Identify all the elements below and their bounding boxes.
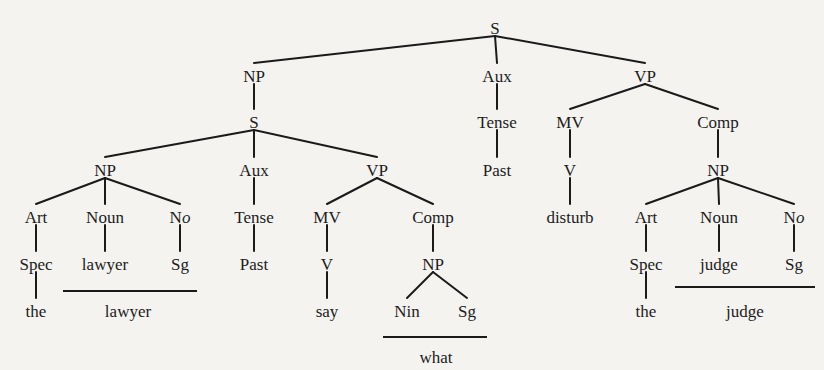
tree-node-Comp_1: Comp [697,113,739,132]
tree-edge-S_root-to-Aux_1 [495,36,497,63]
tree-edge-NP_2-to-No_1 [105,178,180,204]
tree-node-No_2: No [784,208,805,227]
tree-node-the_2: the [636,302,657,321]
tree-node-NP_3: NP [422,255,444,274]
tree-node-Past_2: Past [240,255,269,274]
tree-edge-VP_1-to-Comp_1 [645,84,718,109]
tree-edge-NP_3-to-Nin [407,272,433,298]
tree-node-Sg_2: Sg [458,302,476,321]
tree-node-Comp_2: Comp [412,208,454,227]
surface-form-underlines [63,287,815,337]
tree-node-Spec_2: Spec [629,255,663,274]
tree-edge-VP_1-to-MV_1 [570,84,645,109]
tree-edge-VP_2-to-MV_2 [327,178,377,204]
tree-node-MV_1: MV [556,113,584,132]
tree-node-Noun_2: Noun [700,208,738,227]
tree-edge-S_root-to-VP_1 [495,36,645,63]
tree-edge-S_root-to-NP_1 [254,36,495,63]
tree-edge-NP_4-to-Art_2 [646,178,718,204]
tree-node-Sg_3: Sg [785,255,803,274]
tree-edge-NP_2-to-Art_1 [36,178,105,204]
tree-node-Aux_1: Aux [482,67,512,86]
tree-node-judge_1: judge [699,255,738,274]
tree-edge-NP_4-to-Noun_2 [718,178,719,204]
tree-node-S_root: S [490,19,499,38]
tree-node-S_2: S [249,113,258,132]
tree-node-Spec_1: Spec [19,255,53,274]
tree-nodes: SNPAuxVPSTenseMVCompPastVNPNPAuxVPdistur… [19,19,804,321]
tree-node-V_1: V [564,161,577,180]
tree-node-Past_1: Past [483,161,512,180]
tree-node-Nin: Nin [394,302,420,321]
tree-node-Art_2: Art [635,208,658,227]
tree-node-VP_2: VP [366,161,388,180]
tree-node-lawyer_1: lawyer [82,255,129,274]
tree-edge-NP_4-to-No_2 [718,178,794,204]
tree-edge-S_2-to-VP_2 [254,130,377,157]
tree-node-NP_2: NP [94,161,116,180]
tree-edge-S_2-to-NP_2 [105,130,254,157]
tree-node-VP_1: VP [634,67,656,86]
tree-node-disturb: disturb [546,208,593,227]
surface_what: what [419,348,452,367]
tree-edge-VP_2-to-Comp_2 [377,178,433,204]
tree-node-NP_1: NP [243,67,265,86]
tree-node-Aux_2: Aux [239,161,269,180]
tree-node-MV_2: MV [313,208,341,227]
surface_lawyer: lawyer [105,302,152,321]
surface-forms: lawyerwhatjudge [105,302,764,367]
tree-node-Art_1: Art [25,208,48,227]
tree-node-say: say [316,302,339,321]
tree-node-Noun_1: Noun [86,208,124,227]
tree-node-Tense_2: Tense [234,208,273,227]
tree-node-NP_4: NP [707,161,729,180]
tree-edges [36,36,794,298]
tree-node-V_2: V [321,255,334,274]
surface_judge: judge [725,302,764,321]
tree-edge-NP_3-to-Sg_2 [433,272,467,298]
tree-node-Sg_1: Sg [171,255,189,274]
syntax-tree-diagram: SNPAuxVPSTenseMVCompPastVNPNPAuxVPdistur… [0,0,824,370]
tree-node-No_1: No [170,208,191,227]
tree-node-Tense_1: Tense [477,113,516,132]
tree-node-the_1: the [26,302,47,321]
